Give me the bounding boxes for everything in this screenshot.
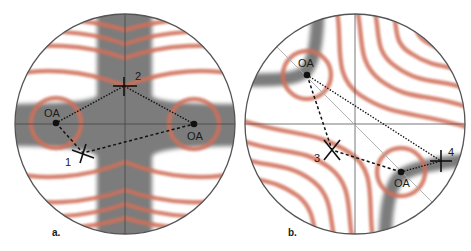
panel-label-b: b. <box>288 227 297 238</box>
optic-axis-label: OA <box>44 107 61 119</box>
position-label-3: 3 <box>314 152 320 164</box>
position-label-2: 2 <box>135 70 141 82</box>
optic-axis-label: OA <box>394 177 411 189</box>
position-label-1: 1 <box>65 156 71 168</box>
optic-axis-marker <box>398 169 405 176</box>
isogyre-cross <box>0 0 240 251</box>
position-label-4: 4 <box>448 146 454 158</box>
panel-b: OA OA 3 4 b. <box>240 0 471 251</box>
interference-figure-diagram: OA OA 2 1 a. <box>0 0 471 251</box>
panel-label-a: a. <box>52 227 61 238</box>
panel-a: OA OA 2 1 a. <box>0 0 250 251</box>
optic-axis-marker <box>53 120 60 127</box>
optic-axis-marker <box>304 72 311 79</box>
optic-axis-marker <box>191 121 198 128</box>
optic-axis-label: OA <box>187 130 204 142</box>
optic-axis-label: OA <box>298 57 315 69</box>
